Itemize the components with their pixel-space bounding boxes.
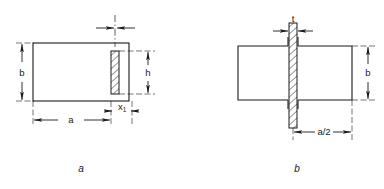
body-outline-b-right — [298, 46, 352, 100]
body-outline-b-left — [238, 46, 288, 100]
subfigure-a: b h a x1 a — [16, 15, 155, 174]
dim-label-a-x1: x1 — [118, 101, 127, 113]
plate-section-b — [289, 23, 297, 128]
caption-subfigure-b: b — [294, 163, 300, 174]
subfigure-b: t b a/2 b — [238, 13, 377, 174]
dim-label-b-b: b — [365, 67, 370, 78]
dim-label-a-b: b — [19, 67, 24, 78]
dim-label-a-h: h — [145, 67, 150, 78]
dim-label-a-a: a — [68, 114, 74, 125]
dim-label-b-half: a/2 — [317, 126, 330, 137]
caption-subfigure-a: a — [78, 163, 84, 174]
dim-label-b-t: t — [292, 13, 295, 24]
technical-drawing-svg: b h a x1 a — [0, 0, 384, 189]
figure-sheet: b h a x1 a — [0, 0, 384, 189]
dim-label-a-x1-subscript: 1 — [123, 106, 127, 113]
plate-section-a — [111, 51, 119, 94]
